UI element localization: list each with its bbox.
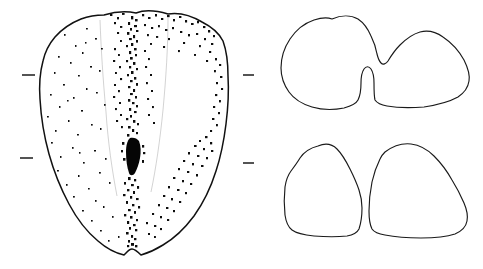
tooth-illustration-svg <box>0 0 483 269</box>
figure-canvas: Scientific line drawing of a tooth: occl… <box>0 0 483 269</box>
